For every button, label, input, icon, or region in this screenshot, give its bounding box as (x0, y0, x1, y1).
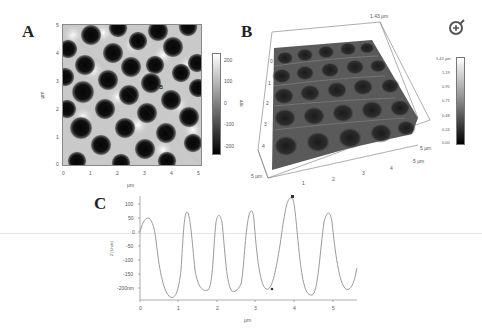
c-ytick: 100 (125, 201, 133, 207)
c-xtick: 4 (293, 305, 296, 311)
c-xtick: 3 (254, 305, 257, 311)
c-ytick: -150 (123, 271, 133, 277)
c-xtick: 5 (332, 305, 335, 311)
max-marker (291, 195, 294, 198)
profile-line (140, 198, 357, 298)
c-ytick: 0 (132, 229, 135, 235)
c-xlabel: µm (244, 317, 251, 323)
c-xtick: 2 (216, 305, 219, 311)
profile-chart (0, 0, 482, 336)
c-ylabel: Z [Units] (109, 241, 114, 256)
c-xtick: 0 (139, 305, 142, 311)
min-marker (271, 288, 274, 291)
c-xtick: 1 (177, 305, 180, 311)
c-ytick: 50 (128, 215, 134, 221)
c-ytick: -200nm (117, 285, 134, 291)
c-ytick: -50 (126, 243, 133, 249)
c-ytick: -100 (123, 257, 133, 263)
